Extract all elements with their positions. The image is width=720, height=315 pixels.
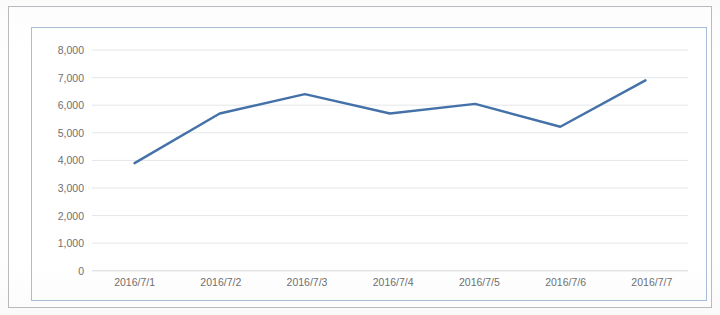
xtick-label: 2016/7/6 xyxy=(545,276,586,288)
scanned-page: 8,000 7,000 6,000 5,000 4,000 3,000 2,00… xyxy=(0,0,720,315)
xtick-label: 2016/7/3 xyxy=(287,276,328,288)
gridlines xyxy=(92,50,688,271)
ytick-label: 1,000 xyxy=(58,237,84,249)
xtick-label: 2016/7/1 xyxy=(114,276,155,288)
ytick-label: 6,000 xyxy=(58,99,84,111)
xtick-label: 2016/7/4 xyxy=(373,276,414,288)
ytick-label: 4,000 xyxy=(58,154,84,166)
xtick-label: 2016/7/7 xyxy=(631,276,672,288)
xtick-label: 2016/7/5 xyxy=(459,276,500,288)
ytick-label: 5,000 xyxy=(58,127,84,139)
ytick-label: 2,000 xyxy=(58,210,84,222)
ytick-label: 0 xyxy=(78,265,84,277)
x-axis-ticks: 2016/7/1 2016/7/2 2016/7/3 2016/7/4 2016… xyxy=(114,276,672,288)
ytick-label: 8,000 xyxy=(58,44,84,56)
y-axis-ticks: 8,000 7,000 6,000 5,000 4,000 3,000 2,00… xyxy=(58,44,84,277)
data-series-line xyxy=(135,80,646,163)
line-chart: 8,000 7,000 6,000 5,000 4,000 3,000 2,00… xyxy=(32,28,706,300)
ytick-label: 3,000 xyxy=(58,182,84,194)
plot-area: 8,000 7,000 6,000 5,000 4,000 3,000 2,00… xyxy=(32,28,706,300)
document-frame: 8,000 7,000 6,000 5,000 4,000 3,000 2,00… xyxy=(8,6,712,308)
chart-object[interactable]: 8,000 7,000 6,000 5,000 4,000 3,000 2,00… xyxy=(31,27,707,301)
xtick-label: 2016/7/2 xyxy=(200,276,241,288)
ytick-label: 7,000 xyxy=(58,72,84,84)
